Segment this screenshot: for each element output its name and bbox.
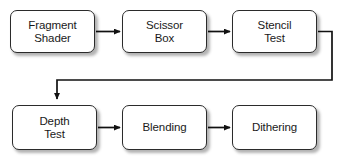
node-label-depth-test: Depth Test (39, 115, 69, 141)
node-scissor-box[interactable]: Scissor Box (122, 10, 207, 53)
node-label-scissor-box: Scissor Box (146, 19, 183, 45)
node-label-blending: Blending (143, 121, 187, 134)
node-blending[interactable]: Blending (122, 105, 207, 150)
node-dithering[interactable]: Dithering (232, 105, 317, 150)
node-depth-test[interactable]: Depth Test (12, 105, 97, 150)
node-label-stencil-test: Stencil Test (258, 19, 292, 45)
node-label-fragment-shader: Fragment Shader (28, 19, 76, 45)
node-fragment-shader[interactable]: Fragment Shader (10, 10, 95, 53)
node-label-dithering: Dithering (252, 121, 297, 134)
node-stencil-test[interactable]: Stencil Test (232, 10, 317, 53)
pipeline-diagram: Fragment Shader Scissor Box Stencil Test… (0, 0, 343, 162)
